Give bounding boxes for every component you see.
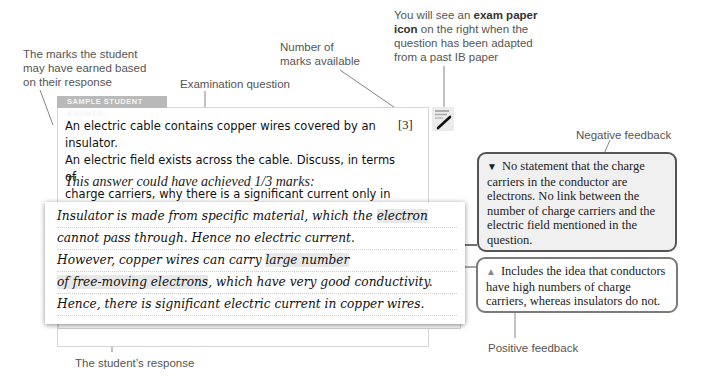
response-highlight: electron bbox=[377, 209, 428, 223]
annotation-line: You will see an exam paper bbox=[394, 8, 537, 22]
annotation-line: icon on the right when the bbox=[394, 22, 537, 36]
annotation-line: marks available bbox=[280, 54, 360, 68]
negative-feedback-box: ▼No statement that the charge carriers i… bbox=[477, 152, 677, 252]
response-highlight: large number bbox=[265, 253, 349, 267]
annotation-line: The marks the student bbox=[23, 47, 146, 61]
down-triangle-icon: ▼ bbox=[487, 160, 497, 175]
sample-answer-tab: SAMPLE STUDENT ANSWER bbox=[57, 96, 167, 108]
positive-feedback-box: ▲Includes the idea that conductors have … bbox=[476, 257, 678, 313]
response-text: , which have very good conductivity. bbox=[208, 275, 433, 289]
annotation-line: from a past IB paper bbox=[394, 50, 537, 64]
annotation-line: Number of bbox=[280, 40, 360, 54]
annotation-line: on their response bbox=[23, 75, 146, 89]
response-highlight: of free-moving electrons bbox=[57, 275, 208, 289]
annotation-student-response: The student’s response bbox=[75, 356, 194, 370]
question-line: An electric cable contains copper wires … bbox=[65, 118, 405, 152]
up-triangle-icon: ▲ bbox=[486, 265, 496, 280]
response-line: Insulator is made from specific material… bbox=[57, 205, 457, 228]
annotation-positive-feedback: Positive feedback bbox=[488, 341, 578, 355]
response-line: cannot pass through. Hence no electric c… bbox=[57, 227, 457, 250]
achieved-marks: This answer could have achieved 1/3 mark… bbox=[65, 174, 315, 190]
response-text: Insulator is made from specific material… bbox=[57, 209, 377, 223]
annotation-exam-question: Examination question bbox=[180, 77, 290, 91]
annotation-bold: exam paper bbox=[474, 9, 538, 21]
positive-feedback-text: Includes the idea that conductors have h… bbox=[486, 264, 665, 308]
response-line: Hence, there is significant electric cur… bbox=[57, 293, 457, 316]
exam-paper-pencil-icon bbox=[432, 107, 454, 131]
annotation-text: You will see an bbox=[394, 9, 470, 21]
annotation-bold: icon bbox=[394, 23, 418, 35]
response-line: of free-moving electrons, which have ver… bbox=[57, 271, 457, 294]
response-text: However, copper wires can carry bbox=[57, 253, 265, 267]
annotation-line: may have earned based bbox=[23, 61, 146, 75]
annotation-line: question has been adapted bbox=[394, 36, 537, 50]
response-line: However, copper wires can carry large nu… bbox=[57, 249, 457, 272]
annotation-text: on the right when the bbox=[421, 23, 528, 35]
student-response: Insulator is made from specific material… bbox=[45, 202, 465, 324]
marks-available: [3] bbox=[398, 118, 413, 133]
annotation-negative-feedback: Negative feedback bbox=[576, 128, 671, 142]
response-text: cannot pass through. Hence no electric c… bbox=[57, 231, 355, 245]
annotation-marks-available: Number of marks available bbox=[280, 40, 360, 68]
response-text: Hence, there is significant electric cur… bbox=[57, 297, 424, 311]
annotation-exam-icon: You will see an exam paper icon on the r… bbox=[394, 8, 537, 64]
negative-feedback-text: No statement that the charge carriers in… bbox=[487, 159, 655, 247]
annotation-marks-earned: The marks the student may have earned ba… bbox=[23, 47, 146, 89]
